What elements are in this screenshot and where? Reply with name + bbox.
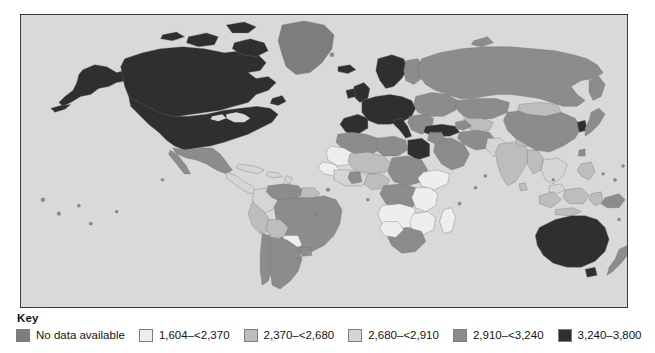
swatch-class-3: [348, 329, 362, 342]
island-dot-16: [330, 53, 334, 57]
legend-item-no-data: No data available: [16, 329, 125, 342]
island-dot-4: [89, 222, 92, 225]
legend-label-class-3: 2,680–<2,910: [368, 329, 439, 342]
island-dot-18: [161, 178, 164, 181]
island-dot-6: [326, 188, 330, 192]
island-dot-9: [458, 202, 461, 205]
legend-items: No data available 1,604–<2,370 2,370–<2,…: [16, 329, 640, 342]
swatch-class-1: [139, 329, 153, 342]
legend-label-class-4: 2,910–<3,240: [473, 329, 544, 342]
region-taiwan: [578, 149, 585, 156]
swatch-class-2: [244, 329, 258, 342]
island-dot-2: [57, 212, 61, 216]
swatch-no-data: [16, 329, 30, 342]
island-dot-19: [296, 258, 299, 261]
region-uruguay: [300, 247, 312, 256]
world-map-figure: [20, 14, 628, 308]
island-dot-12: [613, 178, 616, 181]
legend-item-class-5: 3,240–3,800: [558, 329, 642, 342]
island-dot-20: [552, 178, 555, 181]
legend-title: Key: [17, 312, 640, 325]
legend-item-class-3: 2,680–<2,910: [348, 329, 439, 342]
island-dot-15: [618, 218, 621, 221]
island-dot-1: [41, 198, 45, 202]
island-dot-7: [314, 212, 317, 215]
island-dot-14: [602, 173, 605, 176]
legend-item-class-1: 1,604–<2,370: [139, 329, 230, 342]
region-libya-tunisia: [376, 136, 408, 156]
island-dot-5: [115, 210, 118, 213]
region-ireland: [346, 88, 356, 98]
island-dot-17: [318, 59, 321, 62]
legend-label-class-1: 1,604–<2,370: [159, 329, 230, 342]
swatch-class-5: [558, 329, 572, 342]
island-dot-13: [622, 164, 625, 167]
legend-item-class-4: 2,910–<3,240: [453, 329, 544, 342]
world-map-svg: [21, 15, 627, 307]
legend-item-class-2: 2,370–<2,680: [244, 329, 335, 342]
swatch-class-4: [453, 329, 467, 342]
region-tasmania: [585, 267, 597, 277]
legend-label-class-5: 3,240–3,800: [578, 329, 642, 342]
island-dot-11: [484, 174, 487, 177]
island-dot-3: [77, 204, 80, 207]
island-dot-10: [474, 186, 477, 189]
legend-label-no-data: No data available: [36, 329, 125, 342]
legend-label-class-2: 2,370–<2,680: [264, 329, 335, 342]
legend: Key No data available 1,604–<2,370 2,370…: [16, 312, 640, 342]
island-dot-8: [366, 198, 369, 201]
